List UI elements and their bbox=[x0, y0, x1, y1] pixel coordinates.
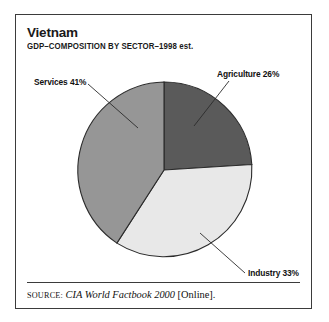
source-label: SOURCE: bbox=[27, 291, 63, 300]
pie-chart: Services 41% Agriculture 26% Industry 33… bbox=[16, 15, 311, 308]
pie-label-industry: Industry 33% bbox=[248, 268, 299, 278]
pie-slice-agriculture[interactable] bbox=[164, 82, 252, 170]
source-work-title: CIA World Factbook 2000 bbox=[66, 289, 175, 300]
pie-chart-svg bbox=[16, 15, 311, 308]
pie-label-services: Services 41% bbox=[34, 77, 86, 87]
source-line: SOURCE: CIA World Factbook 2000 [Online]… bbox=[27, 289, 215, 300]
leader-line-industry bbox=[200, 233, 245, 273]
source-medium: [Online]. bbox=[178, 289, 216, 300]
pie-label-agriculture: Agriculture 26% bbox=[217, 69, 279, 79]
source-divider bbox=[27, 282, 300, 283]
chart-figure: Vietnam GDP–COMPOSITION BY SECTOR–1998 e… bbox=[15, 14, 312, 309]
